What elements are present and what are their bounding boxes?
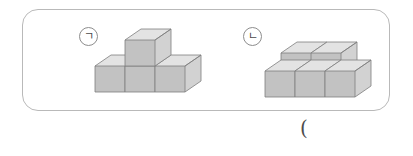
page-root: ㄱ [0,0,413,156]
figure-group-b: ㄴ [233,10,383,110]
cube-figure-b [261,24,391,109]
cube-figure-a [91,26,221,106]
figure-label-b: ㄴ [243,27,262,46]
figure-group-a: ㄱ [69,10,219,110]
problem-box: ㄱ [22,9,390,111]
trailing-parenthesis: ( [300,118,308,138]
cube-a-bottom-middle [125,66,155,92]
